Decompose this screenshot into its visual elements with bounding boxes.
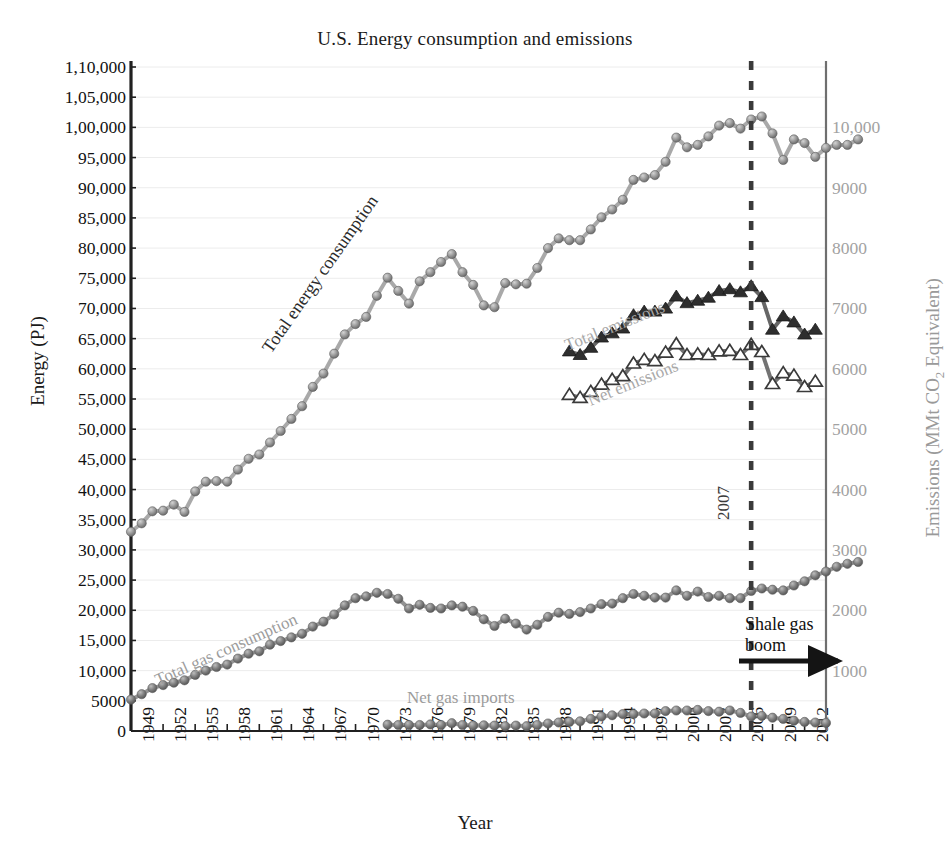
- plot-area: [0, 0, 950, 855]
- series-total-emissions: [562, 280, 822, 360]
- axis-frame: [131, 61, 826, 731]
- chart-root: U.S. Energy consumption and emissions En…: [0, 0, 950, 855]
- series-net-gas-imports: [383, 705, 831, 731]
- series-net-emissions: [562, 338, 822, 403]
- gridlines: [131, 67, 826, 701]
